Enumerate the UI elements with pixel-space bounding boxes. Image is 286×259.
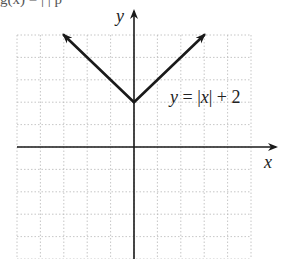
eq-x: x [200, 87, 209, 107]
x-axis-label: x [263, 152, 272, 172]
eq-mid: = | [178, 87, 201, 107]
eq-end: | + 2 [209, 87, 241, 107]
curve-branch [64, 35, 134, 102]
equation-label: y = |x| + 2 [168, 87, 241, 107]
eq-y: y [168, 87, 178, 107]
y-axis-label: y [114, 6, 124, 26]
graph: x y y = |x| + 2 [0, 0, 286, 259]
